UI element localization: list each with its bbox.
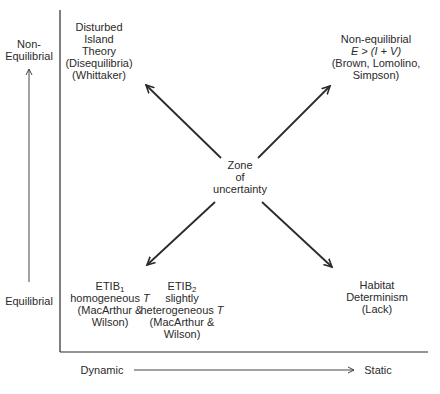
tr-line-4: Simpson) [332,69,421,81]
arrow-to-bottom-right [262,202,332,267]
etib1-title: ETIB1 [70,280,150,292]
node-etib-1: ETIB1 homogeneous T (MacArthur & Wilson) [70,280,150,328]
etib2-t: T [217,304,224,316]
etib2-title: ETIB2 [140,280,223,292]
br-line-1: Habitat [346,279,408,291]
tr-formula: E > (I + V) [351,45,401,57]
arrow-to-bottom-left [147,202,215,265]
br-line-3: (Lack) [346,303,408,315]
tl-line-5: (Whittaker) [65,69,132,81]
center-line-2: of [213,171,267,183]
etib1-line2-text: homogeneous [70,292,140,304]
node-habitat-determinism: Habitat Determinism (Lack) [346,279,408,315]
etib2-line-5: Wilson) [140,328,223,340]
tr-line-1: Non-equilibrial [332,33,421,45]
center-line-3: uncertainty [213,183,267,195]
etib1-line-4: Wilson) [70,316,150,328]
arrow-to-top-left [146,85,221,158]
etib1-title-text: ETIB [96,280,120,292]
y-top-line-2: Equilibrial [5,50,53,62]
tl-line-4: (Disequilibria) [65,57,132,69]
etib2-title-text: ETIB [168,280,192,292]
etib1-line-3: (MacArthur & [70,304,150,316]
node-disturbed-island-theory: Disturbed Island Theory (Disequilibria) … [65,21,132,81]
y-top-line-1: Non- [5,38,53,50]
tl-line-1: Disturbed [65,21,132,33]
node-etib-2: ETIB2 slightly heterogeneous T (MacArthu… [140,280,223,340]
etib2-line3-text: heterogeneous [140,304,213,316]
y-axis-top-label: Non- Equilibrial [5,38,53,62]
etib2-line-2: slightly [140,292,223,304]
etib1-line-2: homogeneous T [70,292,150,304]
br-line-2: Determinism [346,291,408,303]
y-axis-bottom-label: Equilibrial [5,295,53,307]
arrow-to-top-right [258,86,330,158]
tr-line-2: E > (I + V) [332,45,421,57]
node-non-equilibrial: Non-equilibrial E > (I + V) (Brown, Lomo… [332,33,421,81]
tl-line-3: Theory [65,45,132,57]
tr-line-3: (Brown, Lomolino, [332,57,421,69]
etib2-line-4: (MacArthur & [140,316,223,328]
x-axis-right-label: Static [364,364,392,376]
tl-line-2: Island [65,33,132,45]
center-line-1: Zone [213,159,267,171]
zone-of-uncertainty: Zone of uncertainty [213,159,267,195]
x-axis-left-label: Dynamic [81,364,124,376]
etib2-line-3: heterogeneous T [140,304,223,316]
